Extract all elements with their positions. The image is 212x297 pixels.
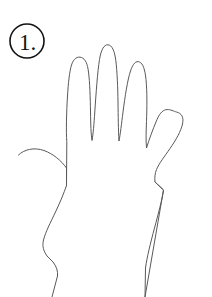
hand-contour-path [19,45,183,297]
hand-outline-drawing: 1. [0,0,212,297]
badge-label: 1. [19,30,36,55]
hand-outline-group [19,45,183,297]
step-number-badge: 1. [10,24,44,58]
worksheet-sheet: 1. [0,0,212,297]
wrist-left-edge-path [43,186,67,297]
